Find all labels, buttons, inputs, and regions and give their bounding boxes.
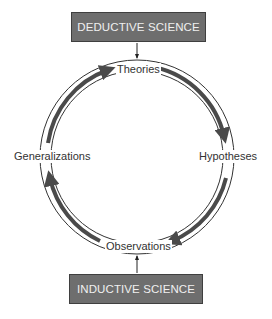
- node-generalizations: Generalizations: [13, 150, 91, 163]
- node-hypotheses: Hypotheses: [198, 150, 258, 163]
- inductive-science-label: INDUCTIVE SCIENCE: [77, 283, 195, 295]
- deductive-science-label: DEDUCTIVE SCIENCE: [77, 21, 199, 33]
- arrow-theories-to-hypotheses: [155, 67, 224, 136]
- node-theories: Theories: [116, 63, 161, 76]
- deductive-science-box: DEDUCTIVE SCIENCE: [71, 12, 206, 42]
- node-observations: Observations: [105, 240, 172, 253]
- inductive-science-box: INDUCTIVE SCIENCE: [69, 274, 203, 304]
- arrow-generalizations-to-theories: [48, 70, 108, 143]
